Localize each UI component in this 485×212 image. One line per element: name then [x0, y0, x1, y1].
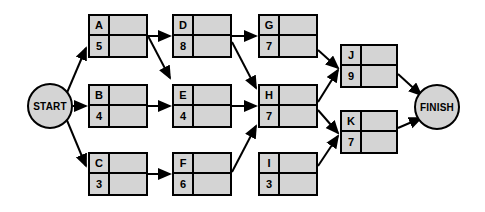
activity-node-a: A5: [88, 14, 148, 58]
activity-duration: 4: [174, 106, 194, 126]
terminal-label: FINISH: [420, 102, 454, 113]
activity-duration: 3: [90, 174, 110, 194]
activity-id: H: [260, 86, 280, 106]
activity-node-f: F6: [172, 152, 232, 196]
activity-node-b: B4: [88, 84, 148, 128]
activity-earliest-start: [280, 154, 316, 174]
activity-id: F: [174, 154, 194, 174]
activity-node-k: K7: [340, 110, 398, 154]
activity-duration: 7: [260, 106, 280, 126]
edge-g-to-j: [318, 50, 338, 68]
activity-id: B: [90, 86, 110, 106]
activity-earliest-start: [362, 46, 396, 66]
activity-earliest-finish: [280, 36, 316, 56]
activity-earliest-finish: [194, 36, 230, 56]
activity-duration: 5: [90, 36, 110, 56]
edge-h-to-j: [318, 70, 338, 102]
activity-duration: 3: [260, 174, 280, 194]
activity-earliest-start: [362, 112, 396, 132]
edge-f-to-h: [232, 126, 256, 172]
activity-node-i: I3: [258, 152, 318, 196]
activity-id: K: [342, 112, 362, 132]
activity-earliest-start: [280, 86, 316, 106]
activity-earliest-finish: [110, 106, 146, 126]
activity-earliest-start: [194, 154, 230, 174]
activity-earliest-start: [280, 16, 316, 36]
activity-node-g: G7: [258, 14, 318, 58]
activity-duration: 8: [174, 36, 194, 56]
activity-duration: 4: [90, 106, 110, 126]
activity-id: C: [90, 154, 110, 174]
edge-start-to-c: [66, 118, 86, 166]
terminal-node-start: START: [27, 83, 73, 129]
terminal-node-finish: FINISH: [414, 84, 460, 130]
activity-earliest-finish: [194, 174, 230, 194]
activity-duration: 9: [342, 66, 362, 86]
edge-d-to-h: [232, 42, 256, 88]
activity-earliest-start: [110, 154, 146, 174]
activity-duration: 7: [260, 36, 280, 56]
edge-i-to-k: [318, 136, 338, 166]
activity-node-e: E4: [172, 84, 232, 128]
activity-duration: 6: [174, 174, 194, 194]
activity-earliest-finish: [110, 36, 146, 56]
activity-node-h: H7: [258, 84, 318, 128]
edge-j-to-finish: [398, 74, 421, 95]
activity-node-c: C3: [88, 152, 148, 196]
terminal-label: START: [33, 101, 67, 112]
activity-id: D: [174, 16, 194, 36]
activity-earliest-finish: [280, 106, 316, 126]
activity-earliest-finish: [362, 66, 396, 86]
activity-id: A: [90, 16, 110, 36]
network-diagram-canvas: STARTFINISH A5B4C3D8E4F6G7H7I3J9K7: [0, 0, 485, 212]
activity-duration: 7: [342, 132, 362, 152]
activity-earliest-start: [194, 86, 230, 106]
activity-earliest-finish: [194, 106, 230, 126]
activity-earliest-start: [110, 16, 146, 36]
activity-id: I: [260, 154, 280, 174]
activity-earliest-finish: [110, 174, 146, 194]
edge-h-to-k: [318, 110, 338, 133]
activity-earliest-finish: [362, 132, 396, 152]
activity-id: J: [342, 46, 362, 66]
edge-a-to-e: [148, 36, 170, 78]
activity-node-d: D8: [172, 14, 232, 58]
edge-start-to-a: [66, 48, 86, 95]
activity-id: E: [174, 86, 194, 106]
activity-earliest-start: [194, 16, 230, 36]
activity-earliest-finish: [280, 174, 316, 194]
activity-earliest-start: [110, 86, 146, 106]
activity-id: G: [260, 16, 280, 36]
activity-node-j: J9: [340, 44, 398, 88]
